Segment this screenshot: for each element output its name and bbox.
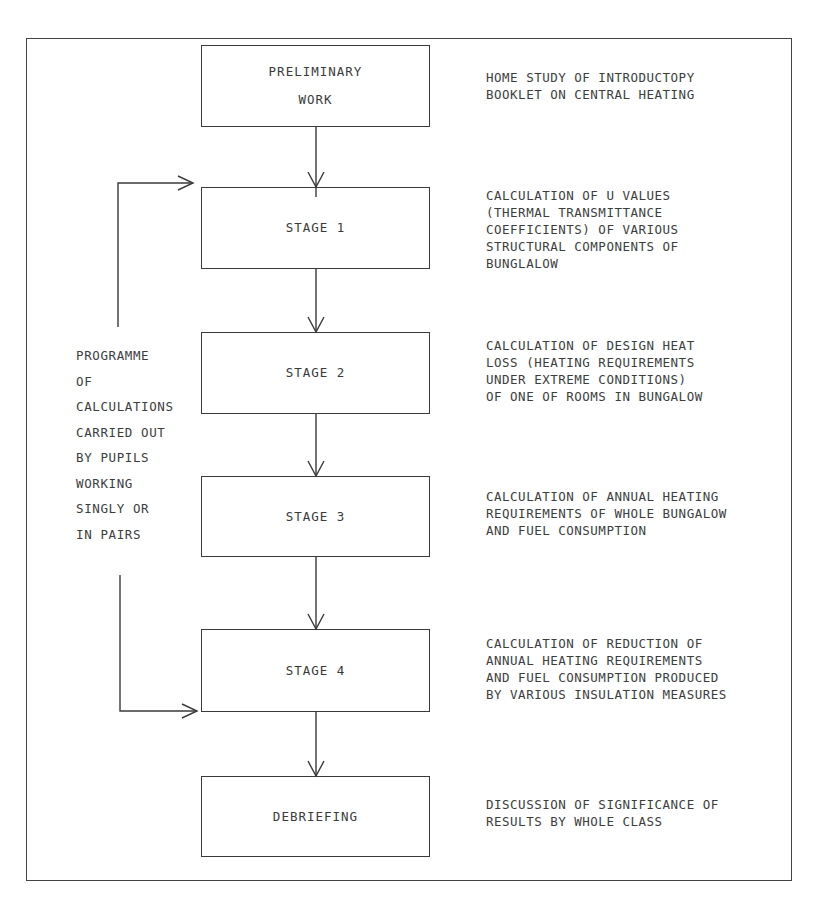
programme-bracket-label: PROGRAMME OF CALCULATIONS CARRIED OUT BY… bbox=[76, 343, 174, 547]
stage-1-label: STAGE 1 bbox=[286, 214, 346, 242]
stage-3-label: STAGE 3 bbox=[286, 503, 346, 531]
preliminary-work-label: PRELIMINARY WORK bbox=[269, 58, 363, 114]
stage-1-box: STAGE 1 bbox=[201, 187, 430, 269]
stage-4-label: STAGE 4 bbox=[286, 657, 346, 685]
stage-2-description: CALCULATION OF DESIGN HEAT LOSS (HEATING… bbox=[486, 337, 703, 405]
stage-1-description: CALCULATION OF U VALUES (THERMAL TRANSMI… bbox=[486, 187, 679, 272]
stage-4-description: CALCULATION OF REDUCTION OF ANNUAL HEATI… bbox=[486, 635, 727, 703]
preliminary-work-box: PRELIMINARY WORK bbox=[201, 45, 430, 127]
debriefing-box: DEBRIEFING bbox=[201, 776, 430, 857]
stage-2-label: STAGE 2 bbox=[286, 359, 346, 387]
stage-2-box: STAGE 2 bbox=[201, 332, 430, 414]
stage-3-description: CALCULATION OF ANNUAL HEATING REQUIREMEN… bbox=[486, 488, 727, 539]
debriefing-label: DEBRIEFING bbox=[273, 803, 358, 831]
stage-4-box: STAGE 4 bbox=[201, 629, 430, 712]
preliminary-description: HOME STUDY OF INTRODUCTOPY BOOKLET ON CE… bbox=[486, 69, 695, 103]
stage-3-box: STAGE 3 bbox=[201, 476, 430, 557]
debriefing-description: DISCUSSION OF SIGNIFICANCE OF RESULTS BY… bbox=[486, 796, 719, 830]
